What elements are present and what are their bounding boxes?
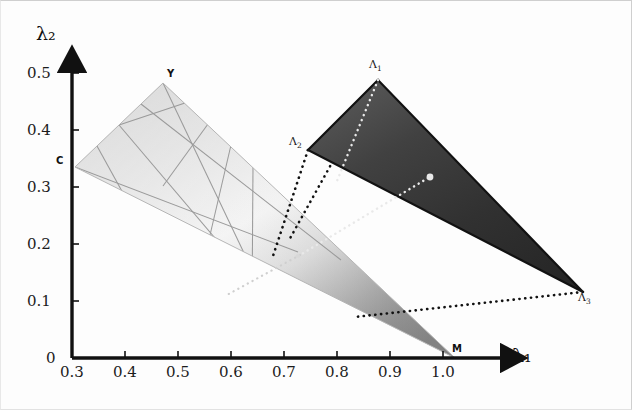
- source-point: [296, 254, 300, 258]
- y-axis-label: λ₂: [36, 22, 56, 44]
- y-tick-0.5: 0.5: [27, 64, 51, 82]
- x-tick-0.5: 0.5: [166, 363, 190, 381]
- vertex-label-lambda2: Λ2: [289, 135, 302, 150]
- vertex-label-lambda3: Λ3: [578, 291, 591, 306]
- y-tick-0: 0: [46, 349, 56, 367]
- figure-canvas: λ₂ λ₁ 0 0.1 0.2 0.3 0.4 0.5 0.3 0.4 0.5 …: [0, 0, 632, 410]
- x-tick-0.9: 0.9: [378, 363, 402, 381]
- vertex-label-yellow: Y: [167, 68, 174, 79]
- x-tick-1.0: 1.0: [431, 363, 455, 381]
- x-axis-label: λ₁: [512, 344, 532, 366]
- x-tick-0.6: 0.6: [219, 363, 243, 381]
- y-tick-0.2: 0.2: [27, 235, 51, 253]
- x-tick-0.3: 0.3: [60, 363, 84, 381]
- y-tick-0.1: 0.1: [27, 292, 51, 310]
- mapped-point: [427, 174, 434, 181]
- y-tick-0.4: 0.4: [27, 121, 51, 139]
- vertex-label-lambda1: Λ1: [369, 58, 382, 73]
- y-tick-0.3: 0.3: [27, 178, 51, 196]
- x-tick-0.7: 0.7: [272, 363, 296, 381]
- x-tick-0.4: 0.4: [113, 363, 137, 381]
- plot-svg: [0, 0, 632, 410]
- x-tick-0.8: 0.8: [325, 363, 349, 381]
- vertex-label-cyan: C: [56, 155, 63, 166]
- vertex-label-magenta: M: [452, 343, 462, 354]
